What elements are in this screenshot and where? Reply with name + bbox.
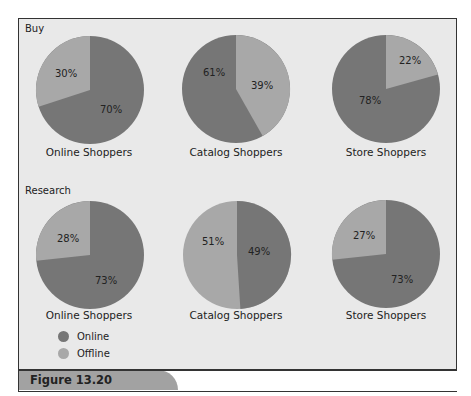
pie-label-online: 70% [100,104,122,115]
divider [18,370,457,371]
pie-label-offline: 30% [55,68,77,79]
section-title-buy: Buy [25,23,44,34]
pie-research-catalog: 51% 49% [182,200,292,310]
pie-buy-store: 22% 78% [331,34,441,144]
pie-label-online: 78% [359,95,381,106]
pie-research-store: 27% 73% [331,199,441,309]
pie-label-offline: 39% [251,80,273,91]
pie-label-offline: 27% [353,230,375,241]
section-title-research: Research [25,185,71,196]
pie-label-online: 73% [95,275,117,286]
pie-caption: Store Shoppers [316,309,456,321]
pie-caption: Catalog Shoppers [166,309,306,321]
pie-buy-catalog: 61% 39% [181,34,291,144]
pie-caption: Online Shoppers [19,146,159,158]
legend-swatch-online [58,331,69,342]
pie-label-offline: 51% [202,236,224,247]
divider [18,391,457,392]
figure-label: Figure 13.20 [30,373,112,387]
pie-label-online: 73% [391,274,413,285]
pie-label-offline: 28% [57,233,79,244]
pie-caption: Catalog Shoppers [166,146,306,158]
pie-caption: Online Shoppers [19,309,159,321]
legend-item-offline: Offline [58,348,110,359]
pie-label-online: 61% [203,67,225,78]
pie-label-online: 49% [248,246,270,257]
divider [18,370,19,392]
pie-research-online: 28% 73% [35,200,145,310]
legend-label: Offline [77,348,110,359]
legend-label: Online [77,331,109,342]
pie-buy-online: 30% 70% [35,35,145,145]
pie-label-offline: 22% [399,55,421,66]
pie-caption: Store Shoppers [316,146,456,158]
legend-item-online: Online [58,331,109,342]
legend-swatch-offline [58,348,69,359]
